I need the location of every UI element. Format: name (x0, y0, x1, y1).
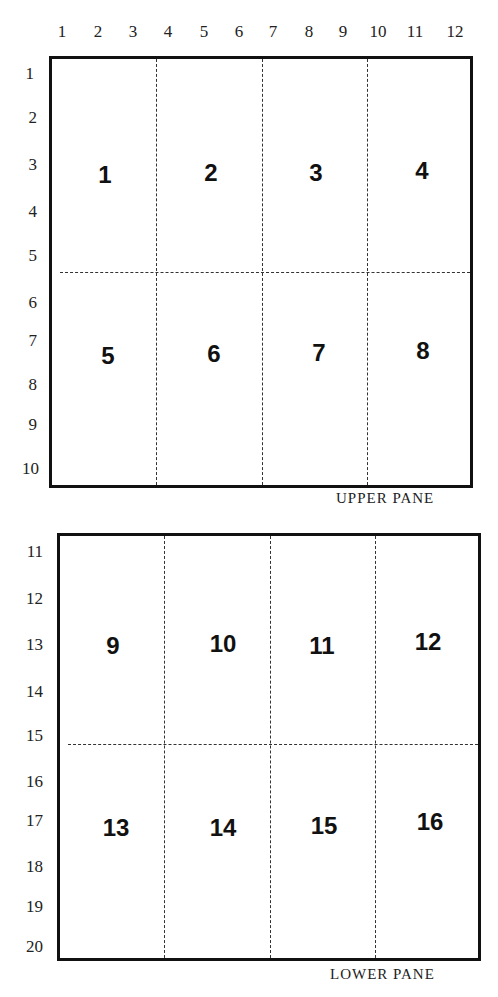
row-label: 16 (3, 772, 43, 792)
lower-pane: 9 10 11 12 13 14 15 16 (57, 533, 481, 961)
cell-label: 15 (311, 812, 338, 840)
row-label: 5 (0, 246, 37, 266)
row-label: 17 (3, 811, 43, 831)
cell-label: 13 (103, 814, 130, 842)
cell-label: 6 (207, 340, 220, 368)
cell-label: 9 (106, 632, 119, 660)
cell-label: 16 (417, 808, 444, 836)
row-label: 7 (0, 331, 37, 351)
row-label: 20 (3, 937, 43, 957)
column-label: 10 (370, 22, 387, 42)
cell-label: 3 (309, 159, 322, 187)
dashed-divider (164, 536, 165, 958)
upper-pane: 1 2 3 4 5 6 7 8 (49, 56, 473, 488)
cell-label: 1 (98, 161, 111, 189)
row-label: 13 (3, 635, 43, 655)
row-label: 4 (0, 202, 37, 222)
row-label: 15 (3, 726, 43, 746)
cell-label: 7 (312, 339, 325, 367)
cell-label: 4 (415, 157, 428, 185)
dashed-divider (60, 272, 470, 273)
upper-pane-caption: UPPER PANE (336, 490, 434, 507)
column-label: 4 (164, 22, 173, 42)
column-labels: 1 2 3 4 5 6 7 8 9 10 11 12 (0, 22, 498, 44)
row-label: 9 (0, 415, 37, 435)
row-label: 12 (3, 589, 43, 609)
cell-label: 11 (309, 632, 334, 660)
column-label: 9 (339, 22, 348, 42)
lower-pane-caption: LOWER PANE (330, 966, 435, 983)
column-label: 3 (129, 22, 138, 42)
cell-label: 2 (204, 159, 217, 187)
row-label: 19 (3, 897, 43, 917)
row-label: 2 (0, 108, 37, 128)
column-label: 2 (94, 22, 103, 42)
cell-label: 5 (101, 342, 114, 370)
dashed-divider (375, 536, 376, 958)
cell-label: 14 (210, 814, 237, 842)
column-label: 12 (447, 22, 464, 42)
row-label: 10 (0, 459, 39, 479)
column-label: 11 (407, 22, 423, 42)
row-label: 11 (3, 542, 43, 562)
column-label: 8 (305, 22, 314, 42)
column-label: 5 (200, 22, 209, 42)
row-label: 18 (3, 857, 43, 877)
column-label: 6 (235, 22, 244, 42)
cell-label: 8 (416, 337, 429, 365)
row-label: 1 (0, 64, 34, 84)
row-label: 8 (0, 375, 37, 395)
row-label: 6 (0, 293, 37, 313)
dashed-divider (68, 744, 478, 745)
dashed-divider (270, 536, 271, 958)
column-label: 1 (58, 22, 67, 42)
cell-label: 10 (210, 630, 237, 658)
row-label: 14 (3, 682, 43, 702)
column-label: 7 (269, 22, 278, 42)
row-label: 3 (0, 155, 37, 175)
cell-label: 12 (415, 628, 442, 656)
